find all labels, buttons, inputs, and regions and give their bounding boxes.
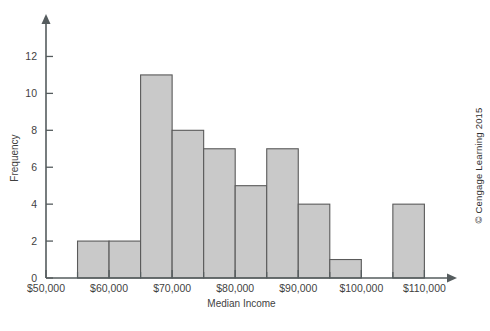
histogram-bar [235, 186, 267, 278]
y-axis-tick-label: 2 [31, 235, 37, 247]
copyright-text: © Cengage Learning 2015 [473, 107, 484, 223]
histogram-bar [204, 149, 236, 278]
histogram-figure: 024681012$50,000$60,000$70,000$80,000$90… [0, 0, 490, 331]
x-axis-tick-label: $70,000 [153, 282, 191, 294]
x-axis-tick-label: $110,000 [403, 282, 446, 294]
histogram-bar [109, 241, 141, 278]
histogram-bar [78, 241, 110, 278]
x-axis-arrow [447, 274, 457, 283]
y-axis-tick-label: 6 [31, 161, 37, 173]
histogram-bar [172, 130, 204, 278]
x-axis-tick-label: $50,000 [27, 282, 65, 294]
y-axis-arrow [42, 14, 51, 24]
x-axis-tick-label: $100,000 [339, 282, 383, 294]
histogram-bar [330, 260, 362, 278]
x-axis-tick-label: $90,000 [279, 282, 317, 294]
copyright-notice: © Cengage Learning 2015 [467, 0, 489, 331]
x-axis-title: Median Income [207, 298, 276, 309]
y-axis-tick-label: 4 [31, 198, 37, 210]
histogram-chart: 024681012$50,000$60,000$70,000$80,000$90… [0, 0, 490, 331]
y-axis-title: Frequency [9, 134, 20, 181]
x-axis-tick-label: $80,000 [216, 282, 254, 294]
histogram-bar [267, 149, 299, 278]
histogram-bar [141, 75, 173, 278]
y-axis-tick-label: 12 [25, 50, 37, 62]
y-axis-tick-label: 8 [31, 124, 37, 136]
histogram-bar [393, 204, 425, 278]
x-axis-tick-label: $60,000 [90, 282, 128, 294]
y-axis-tick-label: 10 [25, 87, 37, 99]
histogram-bar [298, 204, 330, 278]
